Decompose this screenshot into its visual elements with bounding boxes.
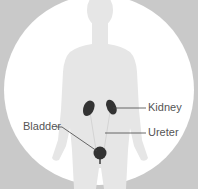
bladder [94,147,107,160]
bladder-label: Bladder [23,121,61,132]
ureter-label: Ureter [148,127,179,138]
urinary-system-diagram [0,0,198,189]
urethra [99,158,100,164]
kidney-label: Kidney [148,102,182,113]
